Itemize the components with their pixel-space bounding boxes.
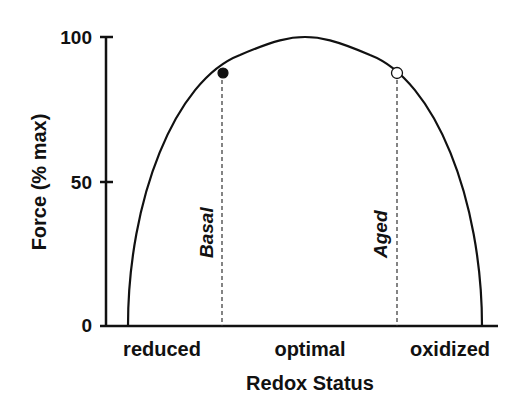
y-axis-label: Force (% max) [28, 114, 50, 251]
basal-marker-filled [218, 68, 228, 78]
category-optimal: optimal [274, 338, 345, 360]
x-axis-label: Redox Status [246, 372, 374, 394]
aged-marker-open [392, 68, 403, 79]
y-tick-label-0: 0 [81, 315, 92, 336]
redox-force-chart: 100 50 0 Force (% max) Basal Aged reduce… [0, 0, 532, 408]
y-tick-label-50: 50 [71, 172, 92, 193]
aged-label: Aged [370, 210, 391, 259]
y-tick-label-100: 100 [60, 27, 92, 48]
category-oxidized: oxidized [410, 338, 490, 360]
category-reduced: reduced [123, 338, 201, 360]
force-curve [128, 37, 482, 326]
basal-label: Basal [196, 207, 217, 258]
